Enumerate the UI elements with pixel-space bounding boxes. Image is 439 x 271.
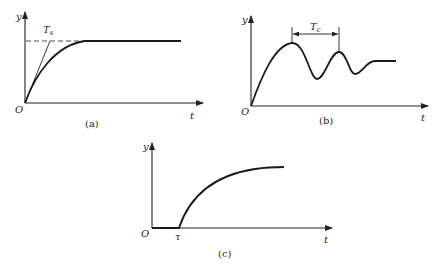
- figure-a: y O t Ts (a): [15, 11, 203, 129]
- x-label: t: [190, 110, 195, 121]
- origin-label: O: [241, 106, 249, 117]
- origin-label: O: [141, 228, 149, 239]
- figure-c: y O τ t (c): [141, 141, 332, 259]
- ts-label: Ts: [43, 24, 54, 37]
- caption-a: (a): [85, 118, 99, 129]
- response-curve: [25, 41, 181, 103]
- y-label: y: [142, 141, 149, 152]
- oscillation-curve: [251, 43, 396, 106]
- x-label: t: [421, 112, 426, 123]
- caption-c: (c): [218, 248, 232, 259]
- delayed-response-curve: [152, 167, 284, 228]
- tc-label: Tc: [310, 21, 321, 34]
- figure-b: y O t Tc (b): [241, 14, 428, 126]
- tau-label: τ: [175, 231, 181, 242]
- caption-b: (b): [319, 115, 333, 126]
- x-label: t: [324, 234, 329, 245]
- origin-label: O: [15, 104, 23, 115]
- diagram-canvas: y O t Ts (a) y O t Tc (b) y O τ t (c): [0, 0, 439, 271]
- y-label: y: [241, 14, 248, 25]
- y-label: y: [15, 11, 22, 22]
